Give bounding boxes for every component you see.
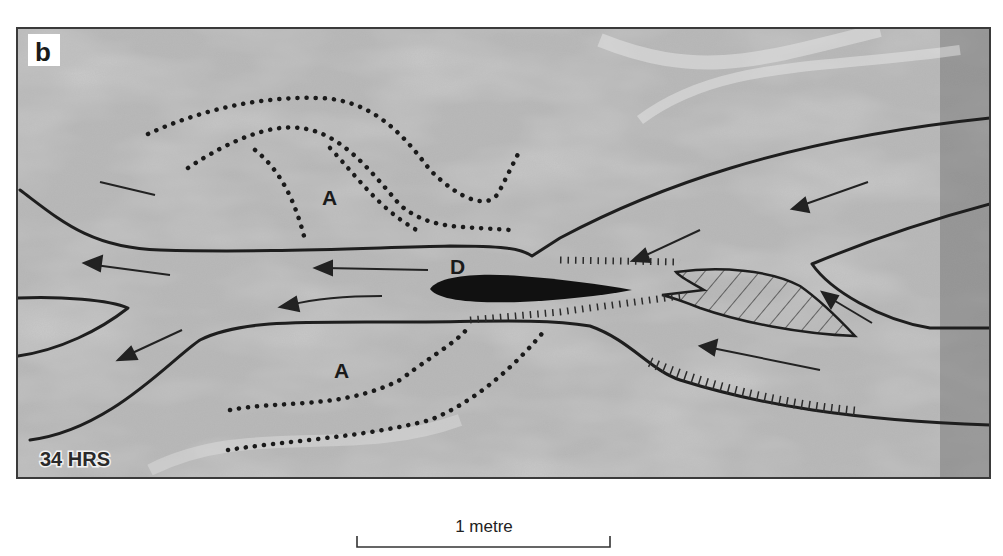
panel-label: b [35,37,51,67]
elapsed-time-label: 34 HRS [40,448,110,470]
braided-channel-figure: b A A D 34 HRS 1 metre [0,0,1003,556]
channel-label: D [450,255,465,278]
bar-label-upper: A [322,186,337,209]
bar-label-lower: A [334,359,349,382]
aerial-photo [17,28,990,478]
scale-bar: 1 metre [357,517,610,547]
scale-bar-label: 1 metre [455,517,513,536]
